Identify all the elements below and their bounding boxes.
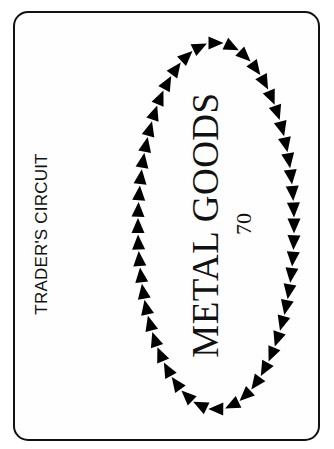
arrow-triangle-icon — [138, 284, 151, 300]
arrow-triangle-icon — [287, 251, 300, 266]
arrow-triangle-icon — [268, 345, 280, 361]
arrow-triangle-icon — [287, 202, 300, 217]
arrow-triangle-icon — [167, 62, 181, 78]
arrow-triangle-icon — [132, 235, 145, 250]
arrow-triangle-icon — [255, 73, 268, 89]
arrow-triangle-icon — [157, 347, 169, 363]
arrow-triangle-icon — [281, 152, 294, 168]
arrow-triangle-icon — [235, 46, 250, 61]
arrow-triangle-icon — [208, 403, 223, 416]
arrow-triangle-icon — [133, 251, 146, 267]
arrow-triangle-icon — [261, 360, 274, 376]
arrow-triangle-icon — [278, 315, 291, 331]
arrow-triangle-icon — [281, 299, 294, 315]
card-value: 70 — [231, 213, 257, 235]
arrow-triangle-icon — [172, 377, 186, 393]
arrow-triangle-icon — [142, 121, 155, 137]
arrow-triangle-icon — [134, 169, 147, 185]
arrow-triangle-icon — [152, 91, 164, 107]
arrow-triangle-icon — [225, 396, 241, 408]
arrow-triangle-icon — [141, 300, 154, 316]
category-label: TRADER'S CIRCUIT — [32, 153, 52, 314]
arrow-triangle-icon — [193, 402, 209, 414]
card-title: METAL GOODS — [184, 92, 227, 357]
arrow-triangle-icon — [274, 120, 287, 136]
arrow-triangle-icon — [181, 391, 196, 406]
arrow-triangle-icon — [146, 316, 159, 332]
arrow-triangle-icon — [209, 37, 224, 50]
arrow-triangle-icon — [246, 59, 260, 75]
arrow-triangle-icon — [288, 219, 301, 234]
arrow-triangle-icon — [284, 169, 297, 185]
arrow-triangle-icon — [135, 267, 148, 283]
arrow-triangle-icon — [136, 153, 149, 169]
arrow-triangle-icon — [286, 185, 299, 201]
arrow-triangle-icon — [284, 283, 297, 299]
arrow-triangle-icon — [286, 267, 299, 283]
arrow-triangle-icon — [164, 363, 177, 379]
arrow-triangle-icon — [132, 185, 145, 200]
arrow-triangle-icon — [138, 137, 151, 153]
arrow-triangle-icon — [263, 88, 275, 104]
arrow-triangle-icon — [273, 330, 285, 346]
arrow-triangle-icon — [158, 76, 171, 92]
arrow-triangle-icon — [288, 235, 301, 250]
arrow-triangle-icon — [191, 44, 207, 56]
arrow-triangle-icon — [132, 202, 145, 217]
arrow-triangle-icon — [278, 136, 291, 152]
arrow-triangle-icon — [151, 332, 163, 348]
arrow-triangle-icon — [251, 374, 265, 390]
arrow-triangle-icon — [223, 38, 239, 50]
arrow-triangle-icon — [132, 218, 145, 233]
arrow-triangle-icon — [146, 105, 158, 121]
arrow-triangle-icon — [269, 104, 281, 120]
